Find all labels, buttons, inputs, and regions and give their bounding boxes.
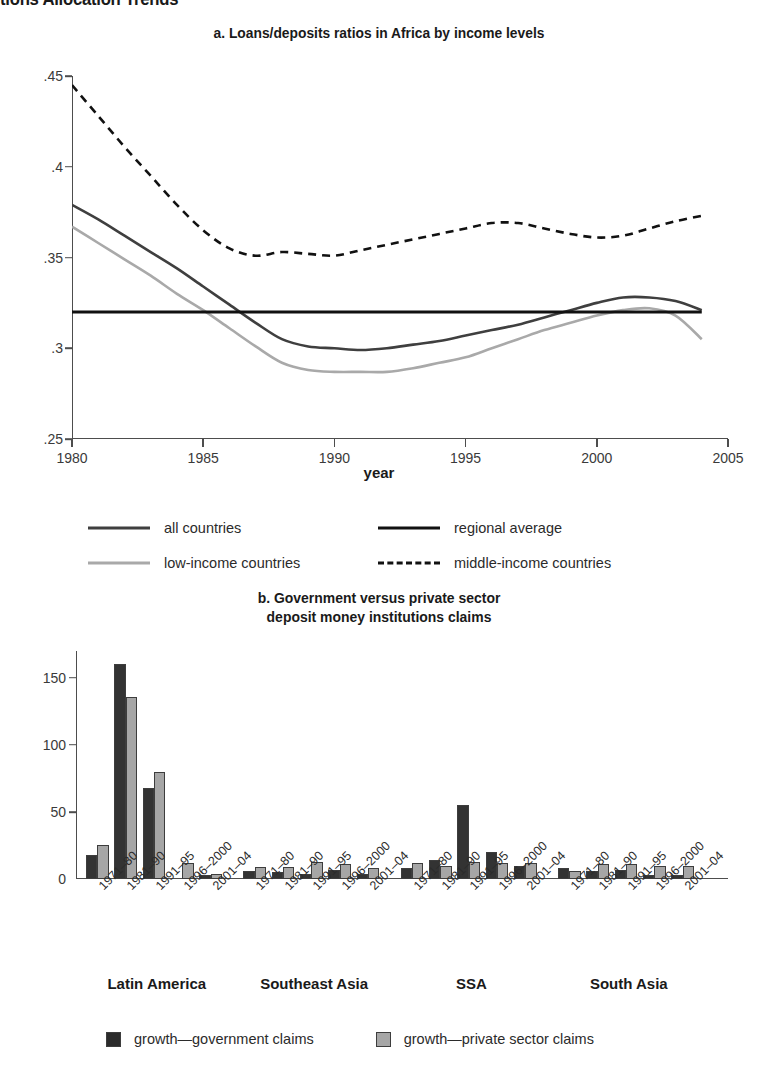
chart-a-x-tick-mark bbox=[71, 439, 73, 447]
chart-b-title-line-2: deposit money institutions claims bbox=[27, 607, 732, 626]
region-label-southeast-asia: Southeast Asia bbox=[260, 975, 368, 992]
chart-b-bars bbox=[76, 651, 728, 879]
chart-a-y-tick-mark bbox=[65, 166, 72, 168]
line-chart-loans-deposits: .25.3.35.4.45 198019851990199520002005 bbox=[72, 76, 728, 439]
line-swatch-icon bbox=[88, 521, 150, 535]
legend-item-private-sector-claims: growth—private sector claims bbox=[376, 1031, 594, 1047]
chart-a-y-tick-label: .35 bbox=[44, 250, 63, 266]
chart-a-x-tick-mark bbox=[202, 439, 204, 447]
chart-b-y-tick-mark bbox=[69, 811, 76, 813]
legend-label: growth—private sector claims bbox=[404, 1031, 594, 1047]
chart-a-y-tick-mark bbox=[65, 257, 72, 259]
legend-item-government-claims: growth—government claims bbox=[106, 1031, 314, 1047]
chart-b-x-axis: 1971–801981–901991–951996–20002001–04197… bbox=[76, 879, 728, 965]
chart-a-x-axis-label: year bbox=[0, 464, 758, 481]
region-label-latin-america: Latin America bbox=[107, 975, 206, 992]
bar-government-southeast-asia-0[interactable] bbox=[243, 871, 254, 879]
legend-item-regional-average: regional average bbox=[378, 520, 688, 536]
chart-a-series-all-countries bbox=[72, 205, 702, 350]
chart-a-y-tick-label: .4 bbox=[51, 159, 63, 175]
chart-a-y-tick-mark bbox=[65, 75, 72, 77]
bar-government-latin-america-1[interactable] bbox=[114, 664, 125, 879]
chart-b-y-tick-mark bbox=[69, 677, 76, 679]
chart-b-region-labels: Latin AmericaSoutheast AsiaSSASouth Asia bbox=[0, 975, 758, 999]
chart-a-title: a. Loans/deposits ratios in Africa by in… bbox=[30, 24, 727, 41]
chart-b-y-tick-label: 0 bbox=[58, 871, 66, 887]
color-swatch-icon bbox=[106, 1032, 121, 1047]
chart-a-x-tick-mark bbox=[727, 439, 729, 447]
color-swatch-icon bbox=[376, 1032, 391, 1047]
chart-a-x-tick-mark bbox=[334, 439, 336, 447]
legend-item-middle-income-countries: middle-income countries bbox=[378, 555, 688, 571]
chart-a-plot-area bbox=[72, 76, 728, 439]
bar-government-ssa-0[interactable] bbox=[401, 868, 412, 879]
chart-b-legend: growth—government claims growth—private … bbox=[106, 1031, 656, 1047]
chart-a-x-tick-mark bbox=[465, 439, 467, 447]
legend-label: middle-income countries bbox=[454, 555, 611, 571]
chart-a-y-tick-label: .25 bbox=[44, 431, 63, 447]
chart-b-y-tick-mark bbox=[69, 744, 76, 746]
chart-a-x-tick-mark bbox=[596, 439, 598, 447]
page-title: tions Allocation Trends bbox=[0, 0, 493, 10]
region-label-south-asia: South Asia bbox=[590, 975, 668, 992]
chart-b-y-tick-label: 100 bbox=[43, 737, 66, 753]
region-label-ssa: SSA bbox=[456, 975, 487, 992]
legend-item-low-income-countries: low-income countries bbox=[88, 555, 378, 571]
chart-a-y-tick-mark bbox=[65, 347, 72, 349]
legend-label: all countries bbox=[164, 520, 241, 536]
bar-government-south-asia-0[interactable] bbox=[558, 868, 569, 879]
legend-label: low-income countries bbox=[164, 555, 300, 571]
bar-chart-claims: 050100150 1971–801981–901991–951996–2000… bbox=[76, 651, 728, 879]
chart-a-legend: all countries regional average low-incom… bbox=[88, 520, 688, 571]
chart-a-y-tick-label: .45 bbox=[44, 68, 63, 84]
chart-b-title: b. Government versus private sector depo… bbox=[27, 588, 732, 626]
legend-label: growth—government claims bbox=[134, 1031, 314, 1047]
chart-b-y-tick-label: 50 bbox=[50, 804, 66, 820]
dashed-line-swatch-icon bbox=[378, 556, 440, 570]
chart-b-title-line-1: b. Government versus private sector bbox=[27, 588, 732, 607]
line-swatch-icon bbox=[88, 556, 150, 570]
line-swatch-icon bbox=[378, 521, 440, 535]
chart-a-series-middle-income-countries bbox=[72, 85, 702, 256]
chart-a-y-tick-label: .3 bbox=[51, 340, 63, 356]
chart-b-y-tick-label: 150 bbox=[43, 670, 66, 686]
legend-label: regional average bbox=[454, 520, 562, 536]
bar-government-latin-america-0[interactable] bbox=[86, 855, 97, 879]
legend-item-all-countries: all countries bbox=[88, 520, 378, 536]
